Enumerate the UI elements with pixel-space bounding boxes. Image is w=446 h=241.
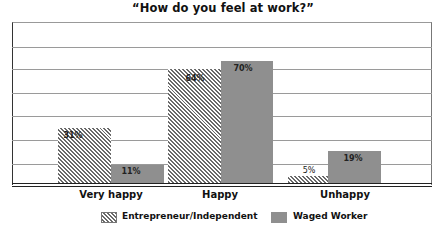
value-label: 70% xyxy=(223,64,263,73)
bar-waged-happy xyxy=(221,61,273,184)
x-axis-baseline xyxy=(12,183,432,187)
gridline xyxy=(12,47,432,48)
legend-swatch-waged xyxy=(271,212,287,223)
legend-label-entrepreneur: Entrepreneur/Independent xyxy=(122,211,258,221)
chart-title: “How do you feel at work?” xyxy=(0,1,446,15)
bar-entrepreneur-happy xyxy=(168,69,221,184)
value-label: 11% xyxy=(111,167,151,176)
value-label: 19% xyxy=(333,154,373,163)
value-label: 64% xyxy=(175,74,215,83)
category-label-very-happy: Very happy xyxy=(66,189,156,200)
category-label-unhappy: Unhappy xyxy=(300,189,390,200)
value-label: 5% xyxy=(289,166,329,175)
legend-label-waged: Waged Worker xyxy=(293,211,367,221)
legend-swatch-entrepreneur xyxy=(101,212,117,223)
category-label-happy: Happy xyxy=(175,189,265,200)
value-label: 31% xyxy=(53,131,93,140)
